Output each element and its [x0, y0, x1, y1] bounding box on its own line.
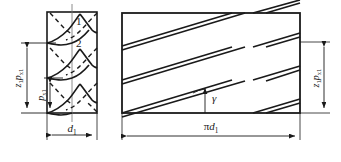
label-z1px1-right-group: z1px1: [310, 69, 322, 89]
label-pid1-subscript: 1: [215, 127, 219, 135]
label-d1: d1: [67, 122, 77, 137]
label-p-subscript: x1: [17, 69, 24, 76]
label-px1-subscript: x1: [40, 89, 47, 96]
helix-label-1: 1: [76, 15, 82, 27]
right-rectangle-outline: [122, 13, 300, 113]
label-z1px1-left: z1px1: [12, 69, 24, 89]
left-view-group: [21, 4, 97, 140]
label-pid1: πd1: [204, 120, 219, 135]
label-z1px1-right: z1px1: [310, 69, 322, 89]
label-px1-group: px1: [35, 89, 47, 102]
right-view-group: [122, 0, 330, 140]
worm-lead-angle-figure: 1 2 z1px1 px1 d1 γ z1px1 πd: [0, 0, 341, 162]
label-px1: px1: [35, 89, 47, 102]
label-gamma: γ: [212, 92, 217, 104]
figure-canvas: 1 2 z1px1 px1 d1 γ z1px1 πd: [0, 0, 341, 162]
label-d1-subscript: 1: [73, 129, 77, 137]
unrolled-helix-lines: [122, 0, 300, 117]
helix-label-2: 2: [76, 37, 82, 49]
label-p-subscript-r: x1: [315, 69, 322, 76]
label-z1px1-left-group: z1px1: [12, 69, 24, 89]
